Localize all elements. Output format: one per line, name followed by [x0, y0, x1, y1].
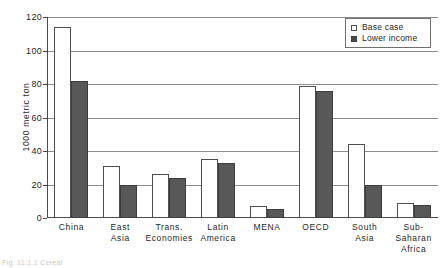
- y-axis-tick-label: 20: [31, 180, 42, 189]
- bar-base-case: [201, 159, 218, 218]
- y-axis-tick-label: 0: [37, 214, 42, 223]
- bar-base-case: [299, 86, 316, 218]
- y-axis-tick-label: 40: [31, 147, 42, 156]
- y-axis-tick-label: 80: [31, 80, 42, 89]
- legend-swatch-base-case-icon: [351, 25, 357, 31]
- bar-lower-income: [169, 178, 186, 218]
- y-axis-tick-label: 60: [31, 113, 42, 122]
- bar-lower-income: [218, 163, 235, 218]
- bar-group: [47, 17, 96, 218]
- legend-label-base-case: Base case: [362, 23, 404, 32]
- x-axis-category-label: MENA: [243, 222, 292, 262]
- bar-lower-income: [316, 91, 333, 218]
- bar-base-case: [54, 27, 71, 218]
- legend-label-lower-income: Lower income: [362, 34, 417, 43]
- x-axis-category-label: EastAsia: [96, 222, 145, 262]
- bar-group: [194, 17, 243, 218]
- bar-lower-income: [120, 185, 137, 218]
- bar-base-case: [397, 203, 414, 218]
- bar-group: [291, 17, 340, 218]
- bar-lower-income: [267, 209, 284, 218]
- figure-caption: Fig. 11.1.1 Cereal: [2, 259, 152, 267]
- x-axis-category-label: OECD: [291, 222, 340, 262]
- x-axis-category-label: China: [47, 222, 96, 262]
- legend-item-lower-income: Lower income: [351, 33, 426, 44]
- y-axis-tick-mark: [43, 218, 47, 219]
- x-axis-category-label: LatinAmerica: [194, 222, 243, 262]
- chart-figure: 1000 metric ton 020406080100120 ChinaEas…: [0, 0, 445, 268]
- bar-group: [243, 17, 292, 218]
- x-axis-category-label: Sub-SaharanAfrica: [389, 222, 438, 262]
- bar-base-case: [152, 174, 169, 218]
- bar-base-case: [103, 166, 120, 218]
- legend-swatch-lower-income-icon: [351, 36, 357, 42]
- bar-group: [96, 17, 145, 218]
- bar-base-case: [348, 144, 365, 218]
- bar-group: [145, 17, 194, 218]
- legend-item-base-case: Base case: [351, 22, 426, 33]
- y-axis-tick-label: 120: [26, 13, 42, 22]
- y-axis-tick-label: 100: [26, 46, 42, 55]
- bar-lower-income: [414, 205, 431, 218]
- x-axis-category-label: Trans.Economies: [145, 222, 194, 262]
- bar-base-case: [250, 206, 267, 218]
- chart-legend: Base case Lower income: [345, 18, 431, 48]
- x-axis-labels: ChinaEastAsiaTrans.EconomiesLatinAmerica…: [47, 222, 438, 262]
- y-axis-title: 1000 metric ton: [21, 47, 31, 187]
- x-axis-category-label: SouthAsia: [340, 222, 389, 262]
- bar-lower-income: [71, 81, 88, 218]
- bar-lower-income: [365, 185, 382, 218]
